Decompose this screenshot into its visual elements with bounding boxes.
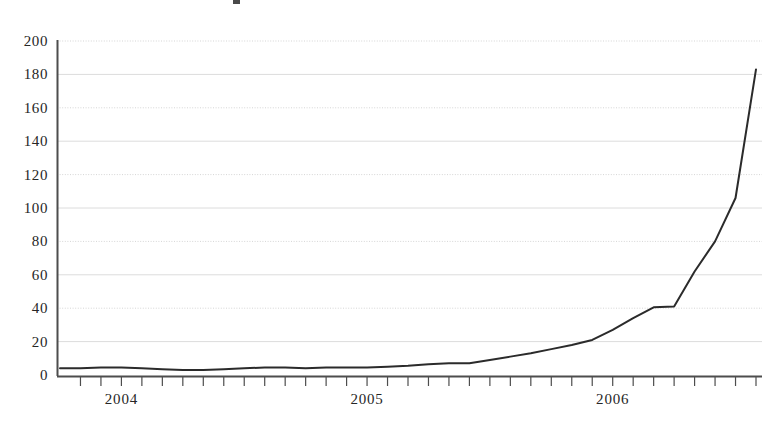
x-tick-label-2004: 2004 [105, 391, 138, 407]
gridlines-horizontal [57, 41, 762, 342]
y-tick-label: 200 [24, 33, 48, 49]
x-tick-label-2006: 2006 [596, 391, 629, 407]
y-tick-label: 140 [24, 133, 48, 149]
chart-canvas: 020406080100120140160180200 200420052006 [0, 0, 784, 428]
y-tick-label: 20 [32, 334, 48, 350]
y-tick-label: 40 [32, 300, 48, 316]
x-axis-ticks [80, 377, 756, 386]
x-axis-tick-labels: 200420052006 [105, 391, 629, 407]
y-tick-label: 160 [24, 100, 48, 116]
y-tick-label: 120 [24, 167, 48, 183]
x-tick-label-2005: 2005 [350, 391, 383, 407]
data-series-line [60, 69, 756, 370]
y-axis-tick-labels: 020406080100120140160180200 [24, 33, 48, 383]
y-tick-label: 100 [24, 200, 48, 216]
line-chart-figure: 020406080100120140160180200 200420052006 [0, 0, 784, 428]
y-tick-label: 0 [40, 367, 48, 383]
y-tick-label: 80 [32, 233, 48, 249]
cropped-title-fragment [233, 0, 240, 4]
y-tick-label: 60 [32, 267, 48, 283]
y-tick-label: 180 [24, 66, 48, 82]
